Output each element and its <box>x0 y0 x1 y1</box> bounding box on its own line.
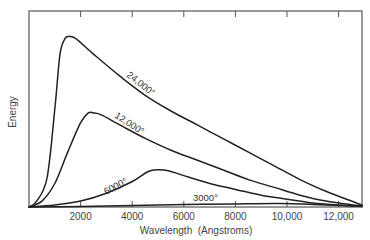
x-tick-label-6000: 6000 <box>173 211 196 222</box>
x-tick-label-8000: 8000 <box>224 211 247 222</box>
blackbody-radiation-chart: 2000 4000 6000 8000 10,000 12,000 Wavele… <box>0 0 370 240</box>
x-tick-labels: 2000 4000 6000 8000 10,000 12,000 <box>69 211 354 222</box>
x-tick-label-10000: 10,000 <box>272 211 303 222</box>
curve-label-6000: 6000° <box>102 175 129 197</box>
x-tick-label-4000: 4000 <box>121 211 144 222</box>
curves <box>29 36 362 207</box>
y-axis-label: Energy <box>7 96 18 128</box>
curve-24000 <box>29 36 362 207</box>
x-tick-label-12000: 12,000 <box>323 211 354 222</box>
top-axis-ticks <box>81 11 339 17</box>
curve-label-12000: 12,000° <box>113 109 147 136</box>
x-axis-label: Wavelength (Angstroms) <box>140 225 252 236</box>
x-tick-label-2000: 2000 <box>69 211 92 222</box>
chart-svg: 2000 4000 6000 8000 10,000 12,000 Wavele… <box>0 0 370 240</box>
curve-label-3000: 3000° <box>193 192 218 203</box>
